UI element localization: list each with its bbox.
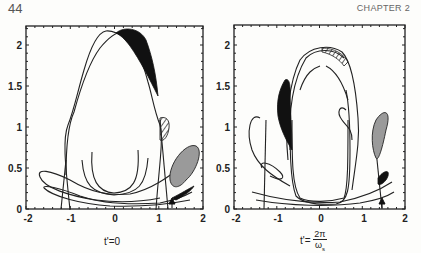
right-black-lobe xyxy=(277,79,292,150)
figure: 2 1.5 1 0.5 0 -2 -1 0 1 2 xyxy=(0,0,421,253)
left-ytick-0.5: 0.5 xyxy=(8,163,22,174)
right-hatched-band xyxy=(322,48,348,66)
right-xtick-0: 0 xyxy=(318,213,324,224)
right-ytick-1: 1 xyxy=(224,122,230,133)
left-ytick-1: 1 xyxy=(16,122,22,133)
left-grey-lobe xyxy=(170,146,199,187)
right-ytick-0: 0 xyxy=(224,204,230,215)
right-plot: 2 1.5 1 0.5 0 -2 -1 0 1 2 xyxy=(216,25,408,224)
left-ytick-2: 2 xyxy=(16,40,22,51)
left-hatched-lobe xyxy=(160,117,169,140)
right-xtick-1: 1 xyxy=(361,213,367,224)
left-xtick--2: -2 xyxy=(24,213,33,224)
left-ytick-0: 0 xyxy=(16,204,22,215)
left-xtick--1: -1 xyxy=(67,213,76,224)
right-caption-fraction: 2π ωs xyxy=(313,229,326,253)
left-black-lobe xyxy=(116,29,158,96)
fraction-denominator: ωs xyxy=(313,240,326,253)
right-arrow-marker xyxy=(379,198,385,208)
left-caption: t'=0 xyxy=(104,236,120,247)
left-xtick-2: 2 xyxy=(200,213,206,224)
right-ytick-0.5: 0.5 xyxy=(216,163,230,174)
left-ytick-1.5: 1.5 xyxy=(8,81,22,92)
left-curves xyxy=(39,31,192,210)
right-ytick-1.5: 1.5 xyxy=(216,81,230,92)
right-xtick--1: -1 xyxy=(274,213,283,224)
right-grey-lobe xyxy=(372,113,388,159)
right-xtick--2: -2 xyxy=(232,213,241,224)
right-curves xyxy=(249,47,394,209)
right-xtick-2: 2 xyxy=(402,213,408,224)
left-xtick-0: 0 xyxy=(112,213,118,224)
omega-subscript: s xyxy=(322,246,325,252)
fraction-numerator: 2π xyxy=(313,229,326,240)
right-small-black-lobe xyxy=(378,172,388,185)
omega-symbol: ω xyxy=(315,240,322,250)
left-xtick-1: 1 xyxy=(156,213,162,224)
right-caption: t'= 2π ωs xyxy=(300,229,327,253)
left-plot: 2 1.5 1 0.5 0 -2 -1 0 1 2 xyxy=(8,26,206,224)
right-ytick-2: 2 xyxy=(224,40,230,51)
right-caption-prefix: t'= xyxy=(300,235,311,246)
